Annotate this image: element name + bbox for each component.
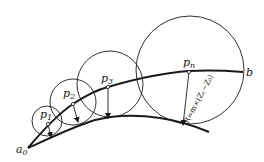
point-p1 (46, 122, 49, 125)
arrow-p2 (73, 104, 78, 122)
label-p3: p3 (101, 72, 113, 86)
rolling-circle-diagram: a0 b p1 p2 p3 pn R=m×(Zₙ−Z₀) (0, 0, 264, 162)
label-a0: a0 (16, 143, 28, 157)
label-b: b (246, 66, 253, 79)
arrow-p1 (48, 124, 51, 137)
label-p2: p2 (63, 87, 75, 101)
label-p1: p1 (40, 108, 52, 122)
point-p2 (71, 102, 74, 105)
point-pn (187, 70, 190, 73)
radius-formula: R=m×(Zₙ−Z₀) (182, 73, 215, 125)
label-pn: pn (183, 56, 195, 70)
